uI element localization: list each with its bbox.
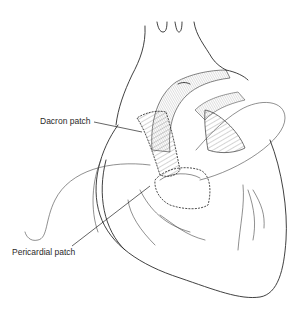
heart-illustration [0,0,303,309]
dacron-leader-line [94,122,142,132]
dacron-patch-label: Dacron patch [40,116,91,126]
suture-loop-left [25,164,150,241]
pericardial-patch-label: Pericardial patch [12,247,75,257]
heart-outline [96,125,286,298]
dacron-patch [137,111,180,176]
coronary-vessels [128,185,264,250]
pericardial-leader-line [72,186,150,246]
atrial-appendage [205,110,245,153]
pulmonary-artery [195,92,245,120]
